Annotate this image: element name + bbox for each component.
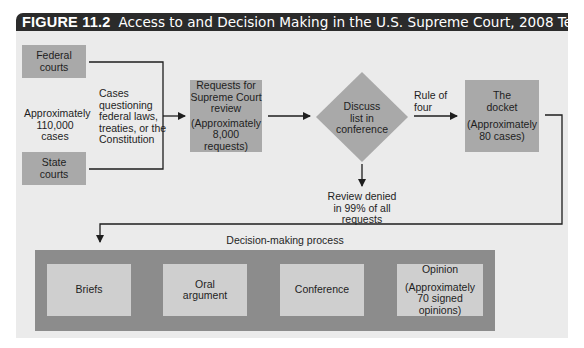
state-courts-line1: State xyxy=(42,157,67,169)
cases-desc-line1: Cases xyxy=(99,88,166,100)
state-courts-box: State courts xyxy=(22,152,86,185)
federal-courts-line1: Federal xyxy=(36,50,72,62)
step-oral-argument: Oral argument xyxy=(163,264,247,316)
docket-count-line2: 80 cases) xyxy=(479,131,525,143)
cases-desc-line5: Constitution xyxy=(99,134,166,146)
requests-box: Requests for Supreme Court review (Appro… xyxy=(190,80,262,152)
docket-count-line1: (Approximately xyxy=(467,119,537,131)
total-cases-line1: Approximately xyxy=(24,108,86,120)
requests-count-line2: 8,000 requests) xyxy=(190,129,262,152)
decision-process-label: Decision-making process xyxy=(160,235,410,247)
total-cases-label: Approximately 110,000 cases xyxy=(24,108,86,143)
step-briefs: Briefs xyxy=(47,264,131,316)
step-conference-label: Conference xyxy=(295,284,349,296)
review-denied-line1: Review denied xyxy=(312,191,412,203)
requests-title-line1: Requests for xyxy=(196,80,256,92)
federal-courts-box: Federal courts xyxy=(22,45,86,78)
diamond-line1: Discuss xyxy=(327,101,397,113)
conference-diamond-label: Discuss list in conference xyxy=(327,101,397,136)
requests-title-line3: review xyxy=(211,103,241,115)
step-conference: Conference xyxy=(280,264,364,316)
total-cases-line2: 110,000 cases xyxy=(24,120,86,143)
step-oral-line2: argument xyxy=(183,290,227,302)
cases-description: Cases questioning federal laws, treaties… xyxy=(99,88,166,146)
step-briefs-label: Briefs xyxy=(76,284,103,296)
cases-desc-line3: federal laws, xyxy=(99,111,166,123)
docket-title-line1: The xyxy=(493,90,511,102)
rule-of-four-line1: Rule of xyxy=(414,90,447,102)
step-opinion: Opinion (Approximately 70 signed opinion… xyxy=(397,264,483,316)
review-denied-line2: in 99% of all requests xyxy=(312,203,412,226)
step-opinion-title: Opinion xyxy=(422,264,458,276)
federal-courts-line2: courts xyxy=(40,62,69,74)
review-denied-label: Review denied in 99% of all requests xyxy=(312,191,412,226)
docket-box: The docket (Approximately 80 cases) xyxy=(465,80,539,152)
state-courts-line2: courts xyxy=(40,169,69,181)
docket-title-line2: docket xyxy=(487,102,518,114)
diamond-line3: conference xyxy=(327,124,397,136)
rule-of-four-line2: four xyxy=(414,102,447,114)
rule-of-four-label: Rule of four xyxy=(414,90,447,113)
step-opinion-sub2: 70 signed opinions) xyxy=(397,293,483,316)
